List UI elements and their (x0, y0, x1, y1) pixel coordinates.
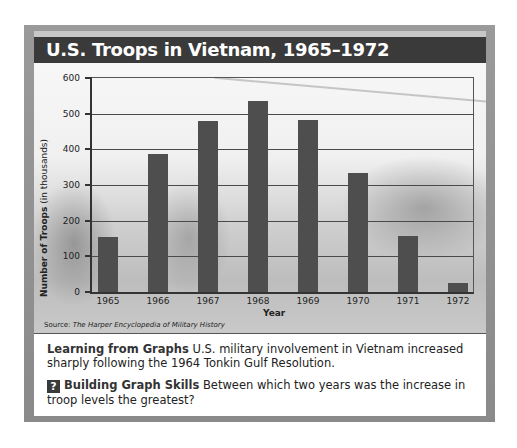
y-tick-label: 500 (50, 109, 80, 119)
gridline (92, 114, 473, 115)
x-tick-label: 1966 (138, 296, 178, 306)
y-tick-mark (85, 220, 92, 222)
title-bar: U.S. Troops in Vietnam, 1965–1972 (34, 37, 486, 63)
x-tick-label: 1970 (338, 296, 378, 306)
gridline (92, 149, 473, 150)
x-tick-label: 1971 (388, 296, 428, 306)
y-tick-label: 400 (50, 144, 80, 154)
y-tick-label: 0 (50, 287, 80, 297)
x-tick-label: 1967 (188, 296, 228, 306)
chart-area: Number of Troops (in thousands) 01002003… (34, 63, 486, 334)
question-icon: ? (47, 380, 60, 393)
building-graph-skills: ?Building Graph Skills Between which two… (47, 378, 477, 407)
x-axis-title: Year (263, 308, 285, 318)
bar-1971 (398, 236, 418, 292)
y-tick-mark (85, 184, 92, 186)
x-tick-label: 1969 (288, 296, 328, 306)
y-tick-mark (85, 148, 92, 150)
y-tick-label: 300 (50, 180, 80, 190)
y-tick-mark (85, 113, 92, 115)
source-citation: Source: The Harper Encyclopedia of Milit… (44, 321, 225, 329)
caption-panel: Learning from Graphs U.S. military invol… (34, 334, 486, 416)
bar-1966 (148, 154, 168, 292)
y-tick-label: 600 (50, 73, 80, 83)
y-tick-mark (85, 255, 92, 257)
y-tick-label: 200 (50, 216, 80, 226)
skills-heading: Building Graph Skills (64, 378, 199, 392)
bar-1972 (448, 283, 468, 292)
bar-1967 (198, 121, 218, 292)
y-tick-label: 100 (50, 251, 80, 261)
chart-title: U.S. Troops in Vietnam, 1965–1972 (46, 38, 389, 62)
x-tick-label: 1972 (438, 296, 478, 306)
y-axis-title: Number of Troops (in thousands) (39, 118, 49, 318)
y-tick-mark (85, 77, 92, 79)
x-tick-label: 1968 (238, 296, 278, 306)
learning-from-graphs: Learning from Graphs U.S. military invol… (47, 342, 477, 370)
plot-area: 0100200300400500600196519661967196819691… (90, 77, 474, 294)
learning-heading: Learning from Graphs (47, 342, 189, 356)
bar-1965 (98, 237, 118, 292)
bar-1970 (348, 173, 368, 292)
bar-1968 (248, 101, 268, 292)
y-tick-mark (85, 291, 92, 293)
x-tick-label: 1965 (88, 296, 128, 306)
bar-1969 (298, 120, 318, 292)
